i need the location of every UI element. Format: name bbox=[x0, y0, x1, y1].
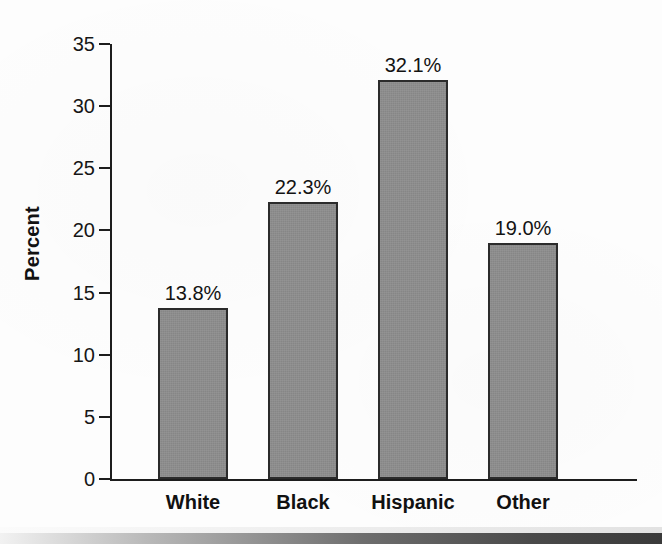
x-axis-label-hispanic: Hispanic bbox=[371, 491, 454, 514]
y-axis-tick bbox=[99, 354, 110, 356]
y-axis-tick-label: 35 bbox=[73, 33, 95, 56]
y-axis-tick-label: 5 bbox=[84, 405, 95, 428]
y-axis-tick-label: 20 bbox=[73, 219, 95, 242]
x-axis-label-white: White bbox=[166, 491, 220, 514]
bar-texture bbox=[270, 204, 336, 477]
x-axis-line bbox=[110, 479, 637, 481]
y-axis-tick bbox=[99, 292, 110, 294]
y-axis-tick-label: 15 bbox=[73, 281, 95, 304]
y-axis-tick-label: 30 bbox=[73, 95, 95, 118]
page-bottom-edge-band bbox=[0, 533, 662, 544]
bar-value-label: 32.1% bbox=[385, 54, 442, 77]
bar-chart-figure: Percent 05101520253035 13.8%22.3%32.1%19… bbox=[0, 0, 662, 544]
y-axis-tick-label: 0 bbox=[84, 468, 95, 491]
bar-black: 22.3% bbox=[268, 202, 338, 479]
plot-area: 05101520253035 13.8%22.3%32.1%19.0% Whit… bbox=[110, 44, 637, 481]
bar-texture bbox=[160, 310, 226, 478]
y-axis-tick-label: 10 bbox=[73, 343, 95, 366]
bar-texture bbox=[490, 245, 556, 477]
y-axis-tick bbox=[99, 229, 110, 231]
y-axis-tick bbox=[99, 43, 110, 45]
bar-value-label: 22.3% bbox=[275, 176, 332, 199]
x-axis-label-black: Black bbox=[276, 491, 329, 514]
y-axis-tick bbox=[99, 416, 110, 418]
bar-value-label: 19.0% bbox=[495, 217, 552, 240]
x-axis-label-other: Other bbox=[496, 491, 549, 514]
bar-white: 13.8% bbox=[158, 308, 228, 480]
bar-other: 19.0% bbox=[488, 243, 558, 479]
y-axis-tick-label: 25 bbox=[73, 157, 95, 180]
bar-hispanic: 32.1% bbox=[378, 80, 448, 479]
y-axis-title: Percent bbox=[21, 179, 44, 309]
bar-texture bbox=[380, 82, 446, 477]
bar-value-label: 13.8% bbox=[165, 282, 222, 305]
y-axis-tick bbox=[99, 105, 110, 107]
y-axis-line bbox=[110, 44, 112, 481]
y-axis-tick bbox=[99, 478, 110, 480]
y-axis-tick bbox=[99, 167, 110, 169]
